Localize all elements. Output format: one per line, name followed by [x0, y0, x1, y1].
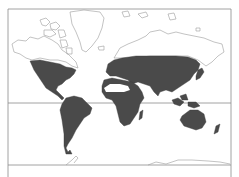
antarctic-peninsula-outline: [66, 156, 78, 165]
range-madagascar: [139, 110, 143, 120]
range-borneo: [180, 94, 188, 100]
range-north-america: [30, 60, 76, 100]
range-australia: [180, 110, 206, 130]
range-south-america: [60, 96, 92, 154]
iceland-outline: [98, 46, 104, 50]
greenland-outline: [70, 10, 104, 52]
range-new-zealand: [214, 124, 220, 134]
arctic-canada-outline: [12, 18, 78, 68]
antarctica-outline: [148, 160, 230, 165]
world-distribution-map: [0, 0, 239, 177]
